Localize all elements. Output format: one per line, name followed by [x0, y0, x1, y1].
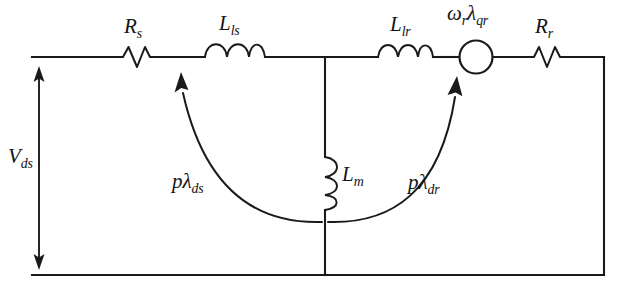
label-stator-leakage-inductance: Lls	[219, 13, 240, 38]
rotor-resistor-symbol	[530, 47, 562, 67]
label-magnetizing-inductance: Lm	[342, 164, 364, 189]
label-stator-flux-base: pλ	[172, 169, 192, 193]
label-stator-resistance-sub: s	[137, 26, 142, 41]
source-circle	[460, 41, 493, 74]
plambda-ds-curve	[183, 93, 322, 222]
label-stator-flux-derivative: pλds	[172, 171, 204, 196]
resistor-zigzag-Rr	[530, 47, 562, 67]
label-speed-emf-source: ωrλqr	[447, 3, 488, 28]
source-voltage-arrow-symbol	[34, 66, 45, 270]
inductor-coils-Lm	[325, 157, 337, 210]
label-stator-leakage-base: L	[219, 11, 231, 35]
label-rotor-leakage-sub: lr	[402, 24, 411, 39]
stator-resistor-symbol	[118, 47, 152, 67]
label-rotor-leakage-inductance: Llr	[390, 14, 411, 39]
label-stator-flux-sub: ds	[192, 181, 204, 196]
label-rotor-resistance-base: R	[535, 14, 548, 38]
plambda-ds-arrowhead	[175, 72, 189, 93]
label-source-voltage-sub: ds	[21, 156, 33, 171]
vertical-rails	[325, 57, 604, 275]
plambda-dr-arrowhead	[448, 76, 463, 96]
label-rotor-resistance: Rr	[535, 16, 553, 41]
plambda-dr-curve	[328, 97, 455, 222]
label-rotor-flux-base: pλ	[408, 170, 428, 194]
rotor-flux-arrow-symbol	[328, 76, 462, 222]
label-rotor-flux-sub: dr	[428, 182, 440, 197]
label-stator-resistance: Rs	[124, 16, 142, 41]
label-magnetizing-base: L	[342, 162, 354, 186]
speed-voltage-source-symbol	[460, 41, 493, 74]
label-magnetizing-sub: m	[354, 174, 364, 189]
label-speed-emf-lambda-sub: qr	[476, 13, 488, 28]
magnetizing-inductor-symbol	[325, 157, 337, 210]
label-stator-leakage-sub: ls	[231, 23, 240, 38]
label-rotor-leakage-base: L	[390, 12, 402, 36]
stator-flux-arrow-symbol	[175, 72, 323, 222]
inductor-coils-Llr	[378, 45, 433, 57]
resistor-zigzag-Rs	[118, 47, 152, 67]
circuit-diagram: Rs Lls Llr ωrλqr Rr Vds Lm pλds pλdr	[0, 0, 624, 294]
inductor-coils-Lls	[205, 44, 265, 57]
stator-leakage-inductor-symbol	[205, 44, 265, 57]
label-speed-emf-omega: ω	[447, 1, 462, 25]
label-source-voltage: Vds	[8, 146, 33, 171]
label-source-voltage-base: V	[8, 144, 21, 168]
label-stator-resistance-base: R	[124, 14, 137, 38]
label-rotor-resistance-sub: r	[548, 26, 553, 41]
rotor-leakage-inductor-symbol	[378, 45, 433, 57]
label-speed-emf-lambda: λ	[467, 1, 476, 25]
label-rotor-flux-derivative: pλdr	[408, 172, 440, 197]
circuit-schematic-svg	[0, 0, 624, 294]
